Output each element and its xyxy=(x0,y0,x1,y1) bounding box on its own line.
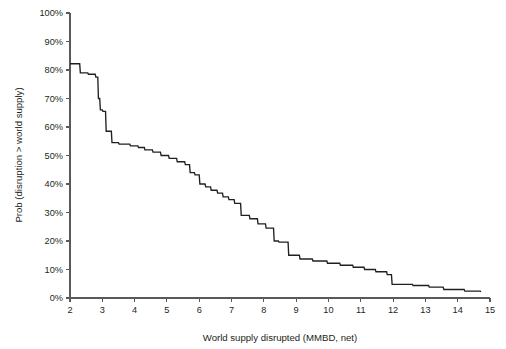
x-tick-label: 5 xyxy=(164,305,169,315)
y-tick-label: 40% xyxy=(45,179,63,189)
y-axis-ticks: 0%10%20%30%40%50%60%70%80%90%100% xyxy=(40,8,71,303)
exceedance-probability-chart: 0%10%20%30%40%50%60%70%80%90%100% 234567… xyxy=(0,0,506,349)
x-tick-label: 13 xyxy=(420,305,430,315)
y-tick-label: 50% xyxy=(45,151,63,161)
data-series-group xyxy=(70,64,481,292)
x-tick-label: 15 xyxy=(485,305,495,315)
y-tick-label: 0% xyxy=(50,293,63,303)
x-tick-label: 7 xyxy=(229,305,234,315)
x-tick-label: 2 xyxy=(67,305,72,315)
chart-figure: 0%10%20%30%40%50%60%70%80%90%100% 234567… xyxy=(0,0,506,349)
x-tick-label: 12 xyxy=(388,305,398,315)
y-tick-label: 10% xyxy=(45,265,63,275)
x-axis-title: World supply disrupted (MMBD, net) xyxy=(203,332,357,343)
x-tick-label: 6 xyxy=(197,305,202,315)
y-tick-label: 30% xyxy=(45,208,63,218)
y-tick-label: 60% xyxy=(45,122,63,132)
y-tick-label: 20% xyxy=(45,236,63,246)
exceedance-curve-line xyxy=(70,64,481,292)
x-tick-label: 4 xyxy=(132,305,137,315)
x-tick-label: 9 xyxy=(294,305,299,315)
x-tick-label: 10 xyxy=(323,305,333,315)
y-tick-label: 90% xyxy=(45,37,63,47)
x-tick-label: 8 xyxy=(261,305,266,315)
plot-axes xyxy=(70,13,490,298)
y-axis-title: Prob (disruption > world supply) xyxy=(13,87,24,222)
x-tick-label: 14 xyxy=(453,305,463,315)
x-tick-label: 11 xyxy=(356,305,366,315)
y-tick-label: 100% xyxy=(40,8,64,18)
x-axis-ticks: 23456789101112131415 xyxy=(67,298,495,315)
x-tick-label: 3 xyxy=(100,305,105,315)
y-tick-label: 80% xyxy=(45,65,63,75)
y-tick-label: 70% xyxy=(45,94,63,104)
